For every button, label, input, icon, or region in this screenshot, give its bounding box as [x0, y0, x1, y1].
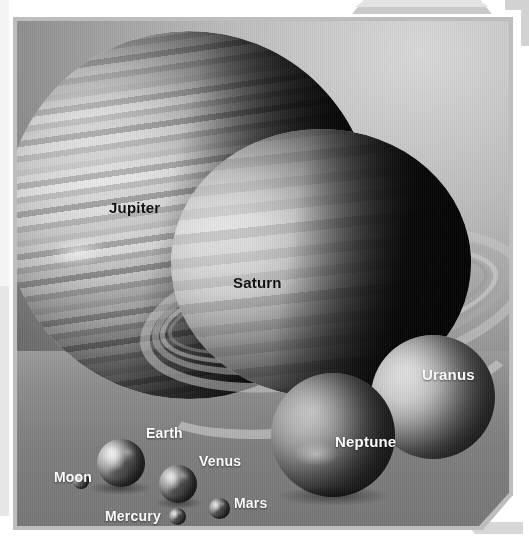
left-edge-strip: [0, 0, 9, 540]
top-tab-decoration: [352, 0, 492, 14]
earth-texture: [97, 439, 145, 487]
image-frame: Jupiter Saturn Uranus Neptune Earth Venu…: [13, 17, 513, 530]
venus-texture: [159, 465, 197, 503]
planet-mercury: [169, 508, 186, 525]
label-pluto: Pluto: [211, 525, 247, 526]
label-saturn: Saturn: [233, 274, 282, 291]
label-mars: Mars: [234, 495, 267, 511]
label-earth: Earth: [146, 425, 183, 441]
planet-mars: [209, 498, 230, 519]
label-venus: Venus: [199, 453, 241, 469]
left-edge-shade: [0, 286, 9, 540]
solar-system-illustration: Jupiter Saturn Uranus Neptune Earth Venu…: [17, 21, 509, 526]
label-moon: Moon: [54, 469, 92, 485]
neptune-shadow: [259, 483, 409, 509]
label-uranus: Uranus: [422, 366, 475, 383]
planet-venus: [159, 465, 197, 503]
label-neptune: Neptune: [335, 433, 396, 450]
planet-earth: [97, 439, 145, 487]
label-jupiter: Jupiter: [109, 199, 160, 216]
label-mercury: Mercury: [105, 508, 161, 524]
mars-texture: [209, 498, 230, 519]
neptune-storm: [293, 442, 339, 466]
mercury-texture: [169, 508, 186, 525]
top-tab-highlight: [355, 0, 489, 7]
